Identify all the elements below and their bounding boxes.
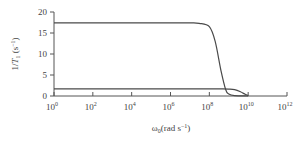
y-axis-label: 1/T1 (s−1) (10, 37, 21, 70)
y-tick-label: 5 (43, 70, 48, 80)
y-tick-label: 20 (38, 7, 48, 17)
series-curve-high (54, 23, 248, 96)
chart: 05101520 10010210410610810101012 ω0(rad … (0, 0, 308, 144)
x-tick-label: 100 (46, 101, 58, 112)
x-tick-label: 1012 (278, 101, 293, 112)
x-ticks: 10010210410610810101012 (46, 92, 293, 112)
y-ticks: 05101520 (38, 7, 54, 101)
x-tick-label: 102 (85, 101, 97, 112)
x-axis-label: ω0(rad s−1) (152, 123, 191, 134)
x-tick-label: 106 (163, 101, 175, 112)
x-tick-label: 1010 (239, 101, 254, 112)
y-tick-label: 10 (38, 49, 48, 59)
y-tick-label: 0 (43, 91, 48, 101)
x-tick-label: 108 (201, 101, 213, 112)
series-curve-low (54, 89, 248, 96)
y-tick-label: 15 (38, 28, 48, 38)
x-tick-label: 104 (124, 101, 136, 112)
